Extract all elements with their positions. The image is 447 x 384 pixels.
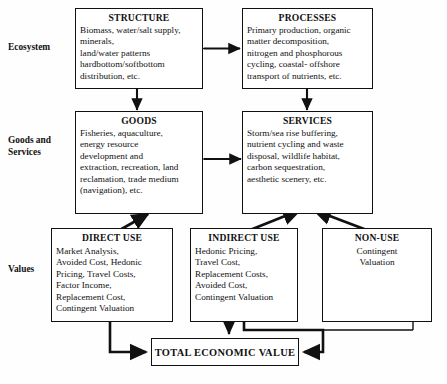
box-direct-use[interactable]: DIRECT USE Market Analysis, Avoided Cost… [51,228,173,322]
box-goods-line: reclamation, trade medium [80,174,198,185]
box-structure-line: Biomass, water/salt supply, [80,25,198,36]
box-processes-title: PROCESSES [243,12,372,23]
box-non-use-line: Valuation [327,257,427,268]
box-indirect-use-line: Contingent Valuation [195,292,293,303]
box-processes-line: Primary production, organic [247,25,368,36]
box-indirect-use-line: Hedonic Pricing, [195,246,293,257]
box-indirect-use-line: Travel Cost, [195,257,293,268]
box-goods[interactable]: GOODS Fisheries, aquaculture, energy res… [75,111,203,214]
box-indirect-use-line: Avoided Cost, [195,280,293,291]
box-direct-use-line: Market Analysis, [56,246,168,257]
box-services[interactable]: SERVICES Storm/sea rise buffering, nutri… [242,111,373,214]
box-indirect-use-body: Hedonic Pricing, Travel Cost, Replacemen… [191,246,297,303]
row-label-ecosystem: Ecosystem [8,42,74,54]
box-services-line: nutrient cycling and waste [247,139,368,150]
total-economic-value-label: TOTAL ECONOMIC VALUE [155,347,295,358]
box-indirect-use[interactable]: INDIRECT USE Hedonic Pricing, Travel Cos… [190,228,298,322]
row-label-goods-line2: Services [8,147,78,159]
box-non-use[interactable]: NON-USE Contingent Valuation [322,228,432,322]
box-goods-title: GOODS [76,115,202,126]
box-processes-line: matter decomposition, [247,36,368,47]
box-non-use-body: Contingent Valuation [323,246,431,269]
box-direct-use-line: Contingent Valuation [56,303,168,314]
row-label-goods-and-services: Goods and Services [8,135,78,158]
box-goods-line: development and [80,151,198,162]
box-structure-line: hardbottom/softbottom [80,59,198,70]
box-processes[interactable]: PROCESSES Primary production, organic ma… [242,8,373,89]
box-goods-line: energy resource [80,139,198,150]
box-total-economic-value[interactable]: TOTAL ECONOMIC VALUE [151,338,299,366]
box-structure-body: Biomass, water/salt supply, minerals, la… [76,25,202,82]
box-services-line: disposal, wildlife habitat, [247,151,368,162]
box-direct-use-body: Market Analysis, Avoided Cost, Hedonic P… [52,246,172,314]
connector-direct-use-total [110,322,146,352]
box-services-line: aesthetic scenery, etc. [247,174,368,185]
box-processes-line: transport of nutrients, etc. [247,71,368,82]
box-services-line: carbon sequestration, [247,162,368,173]
box-non-use-title: NON-USE [323,232,431,243]
box-services-line: Storm/sea rise buffering, [247,128,368,139]
box-indirect-use-title: INDIRECT USE [191,232,297,243]
connector-layer [0,0,447,384]
box-direct-use-line: Replacement Cost, [56,292,168,303]
box-processes-body: Primary production, organic matter decom… [243,25,372,82]
box-structure-line: minerals, [80,36,198,47]
box-services-title: SERVICES [243,115,372,126]
box-non-use-line: Contingent [327,246,427,257]
box-structure-line: distribution, etc. [80,71,198,82]
box-processes-line: nitrogen and phosphorous [247,48,368,59]
row-label-goods-line1: Goods and [8,135,78,147]
box-goods-line: Fisheries, aquaculture, [80,128,198,139]
box-indirect-use-line: Replacement Costs, [195,269,293,280]
box-goods-line: extraction, recreation, land [80,162,198,173]
box-direct-use-line: Factor Income, [56,280,168,291]
box-processes-line: cycling, coastal- offshore [247,59,368,70]
box-structure[interactable]: STRUCTURE Biomass, water/salt supply, mi… [75,8,203,89]
box-structure-line: land/water patterns [80,48,198,59]
box-goods-line: (navigation), etc. [80,185,198,196]
diagram-canvas: Ecosystem Goods and Services Values STRU… [0,0,447,384]
box-services-body: Storm/sea rise buffering, nutrient cycli… [243,128,372,185]
box-direct-use-line: Avoided Cost, Hedonic [56,257,168,268]
box-structure-title: STRUCTURE [76,12,202,23]
box-goods-body: Fisheries, aquaculture, energy resource … [76,128,202,196]
box-direct-use-title: DIRECT USE [52,232,172,243]
box-direct-use-line: Pricing, Travel Costs, [56,269,168,280]
